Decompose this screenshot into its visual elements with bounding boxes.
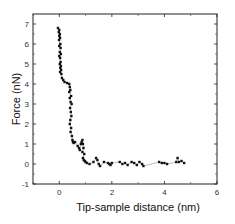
data-point bbox=[158, 161, 160, 163]
data-point bbox=[68, 83, 70, 85]
data-point bbox=[69, 123, 71, 125]
data-point bbox=[59, 57, 61, 59]
y-tick-label: 3 bbox=[25, 100, 30, 109]
y-tick-label: 5 bbox=[25, 60, 30, 69]
data-point bbox=[163, 162, 165, 164]
data-point bbox=[59, 47, 61, 49]
data-point bbox=[183, 162, 185, 164]
x-tick-label: 2 bbox=[110, 188, 115, 197]
data-point bbox=[175, 161, 177, 163]
data-point bbox=[63, 81, 65, 83]
data-point bbox=[74, 141, 76, 143]
data-point bbox=[161, 162, 163, 164]
data-point bbox=[69, 107, 71, 109]
y-tick-label: 6 bbox=[25, 40, 30, 49]
data-point bbox=[166, 163, 168, 165]
y-tick-label: 7 bbox=[25, 20, 30, 29]
data-point bbox=[69, 86, 71, 88]
data-point bbox=[69, 131, 71, 133]
data-point bbox=[142, 165, 144, 167]
x-tick-label: 6 bbox=[215, 188, 220, 197]
x-axis-label: Tip-sample distance (nm) bbox=[76, 201, 200, 213]
data-point bbox=[133, 162, 135, 164]
data-point bbox=[71, 135, 73, 137]
plot-frame bbox=[33, 14, 217, 184]
data-point bbox=[130, 161, 132, 163]
data-point bbox=[99, 165, 101, 167]
x-tick-label: 0 bbox=[57, 188, 62, 197]
data-point bbox=[58, 39, 60, 41]
data-point bbox=[136, 164, 138, 166]
data-point bbox=[69, 119, 71, 121]
data-point bbox=[138, 161, 140, 163]
data-point bbox=[124, 162, 126, 164]
y-axis-label: Force (nN) bbox=[10, 73, 22, 126]
data-point bbox=[70, 127, 72, 129]
data-point bbox=[68, 91, 70, 93]
y-tick-label: 0 bbox=[25, 160, 30, 169]
y-tick-label: 1 bbox=[25, 140, 30, 149]
data-point bbox=[82, 143, 84, 145]
data-point bbox=[111, 162, 113, 164]
data-point bbox=[96, 159, 98, 161]
data-point bbox=[176, 157, 178, 159]
data-point bbox=[79, 149, 81, 151]
data-point bbox=[66, 82, 68, 84]
data-point bbox=[60, 73, 62, 75]
data-point bbox=[92, 161, 94, 163]
data-point bbox=[69, 97, 71, 99]
x-tick-label: 4 bbox=[162, 188, 167, 197]
tick-labels: 0246-101234567 bbox=[22, 20, 220, 197]
data-point bbox=[83, 153, 85, 155]
y-tick-label: 4 bbox=[25, 80, 30, 89]
y-tick-label: 2 bbox=[25, 120, 30, 129]
data-point bbox=[70, 103, 72, 105]
data-point bbox=[121, 163, 123, 165]
data-point bbox=[88, 163, 90, 165]
data-point bbox=[70, 111, 72, 113]
axes-box bbox=[33, 14, 217, 184]
data-point bbox=[86, 162, 88, 164]
data-point bbox=[178, 161, 180, 163]
data-point bbox=[119, 161, 121, 163]
data-point bbox=[82, 147, 84, 149]
axis-ticks bbox=[33, 14, 217, 184]
data-points bbox=[57, 27, 186, 167]
y-tick-label: -1 bbox=[22, 180, 30, 189]
data-point bbox=[70, 115, 72, 117]
data-point bbox=[103, 161, 105, 163]
data-point bbox=[126, 164, 128, 166]
data-point bbox=[81, 139, 83, 141]
data-point bbox=[180, 160, 182, 162]
force-distance-chart: 0246-101234567 Tip-sample distance (nm) … bbox=[0, 0, 235, 224]
